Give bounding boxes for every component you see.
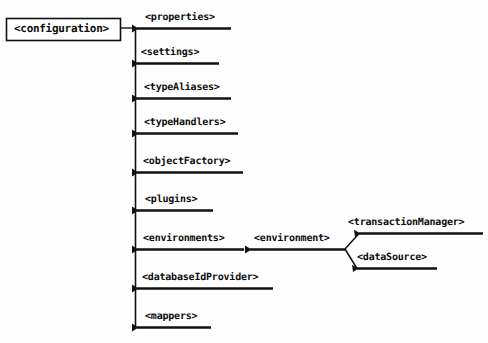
node-label-properties: <properties> [145,12,215,23]
node-label-typehandlers: <typeHandlers> [144,117,226,128]
diagram-lines [7,19,484,332]
node-label-mappers: <mappers> [145,311,197,322]
node-label-environment: <environment> [254,233,330,244]
node-label-typealiases: <typeAliases> [144,82,220,93]
node-label-transactionmanager: <transactionManager> [348,217,464,228]
node-label-plugins: <plugins> [145,194,197,205]
node-label-objectfactory: <objectFactory> [143,156,230,167]
node-label-environments: <environments> [143,233,225,244]
node-label-datasource: <dataSource> [357,252,427,263]
environment-branch-arrow [245,246,252,254]
node-label-databaseidprovider: <databaseIdProvider> [142,272,258,283]
fork-diagonal-1 [345,249,357,269]
node-label-settings: <settings> [141,47,199,58]
diagram-canvas [0,0,488,343]
fork-diagonal-0 [345,234,359,250]
node-label-configuration: <configuration> [14,23,109,34]
element-tree-diagram: <configuration> <properties> <settings> … [0,0,488,343]
